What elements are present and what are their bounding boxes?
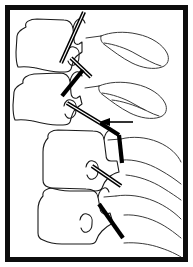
vertebrae-line-drawing — [0, 0, 193, 267]
canvas-background — [0, 0, 193, 267]
figure-container: Lateral line drawing of four vertebrae B… — [0, 0, 193, 267]
marker-3-vertical-edge — [119, 135, 122, 163]
